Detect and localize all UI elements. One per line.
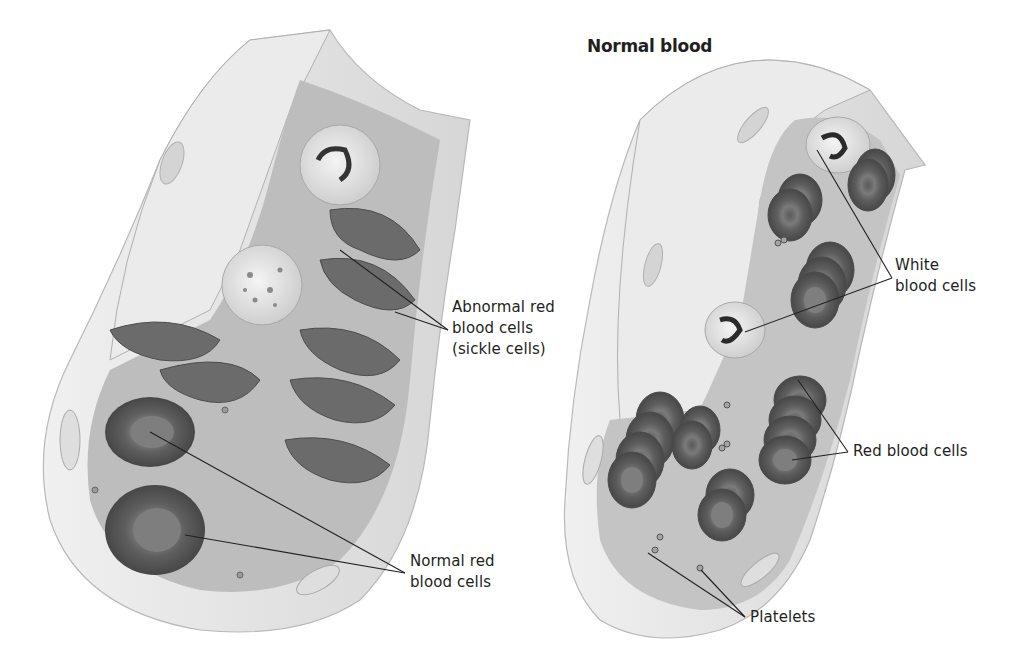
label-line: (sickle cells) <box>452 339 555 360</box>
label-line: Abnormal red <box>452 297 555 318</box>
normal-vessel <box>564 60 925 638</box>
label-line: White <box>895 255 976 276</box>
normal-blood-title: Normal blood <box>587 36 712 56</box>
label-platelets: Platelets <box>750 607 816 628</box>
label-red-blood-cells: Red blood cells <box>853 441 968 462</box>
label-line: Normal red <box>410 551 495 572</box>
label-white-blood-cells: White blood cells <box>895 255 976 297</box>
label-line: Red blood cells <box>853 441 968 462</box>
label-line: blood cells <box>452 318 555 339</box>
label-line: blood cells <box>410 572 495 593</box>
label-line: Platelets <box>750 607 816 628</box>
sickle-vessel <box>43 30 470 632</box>
label-abnormal-red-blood-cells: Abnormal red blood cells (sickle cells) <box>452 297 555 360</box>
label-normal-red-blood-cells: Normal red blood cells <box>410 551 495 593</box>
label-line: blood cells <box>895 276 976 297</box>
figure: Normal blood Abnormal red blood cells (s… <box>0 0 1023 671</box>
